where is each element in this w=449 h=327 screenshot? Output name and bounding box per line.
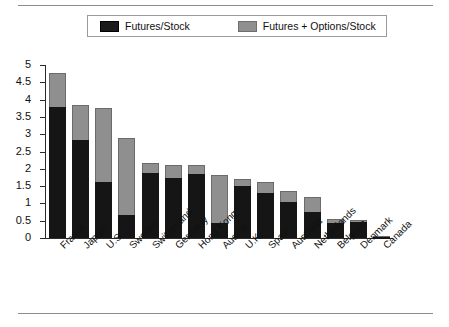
bar-segment-futures-options-stock[interactable] — [304, 197, 321, 212]
legend-swatch-futures-stock — [100, 21, 119, 32]
figure-container: Futures/Stock Futures + Options/Stock 00… — [0, 0, 449, 327]
legend-swatch-futures-options-stock — [238, 21, 257, 32]
legend-entry-futures-stock: Futures/Stock — [100, 21, 190, 32]
y-axis-tick: 0 — [40, 238, 45, 239]
bar-segment-futures-options-stock[interactable] — [188, 165, 205, 174]
y-axis-tick-label: 2.5 — [16, 145, 31, 157]
bar-segment-futures-options-stock[interactable] — [72, 105, 89, 140]
bar-group[interactable] — [72, 105, 89, 238]
y-axis-tick: 4.5 — [40, 82, 45, 83]
bottom-divider-rule — [18, 313, 433, 314]
bar-group[interactable] — [49, 73, 66, 238]
bar-segment-futures-options-stock[interactable] — [142, 163, 159, 173]
bar-segment-futures-options-stock[interactable] — [280, 191, 297, 202]
y-axis-tick-label: 0.5 — [16, 214, 31, 226]
bar-group[interactable] — [95, 108, 112, 238]
bar-segment-futures-options-stock[interactable] — [257, 182, 274, 193]
y-axis-tick-label: 4.5 — [16, 75, 31, 87]
y-axis-tick: 3.5 — [40, 117, 45, 118]
legend-label-futures-stock: Futures/Stock — [125, 21, 190, 32]
y-axis-tick-label: 1 — [25, 196, 31, 208]
y-axis-tick-label: 5 — [25, 58, 31, 70]
y-axis-tick: 3 — [40, 134, 45, 135]
plot-area: 00.511.522.533.544.55 FranceJapanU.S.Swe… — [45, 65, 393, 238]
top-divider-rule — [18, 5, 433, 6]
y-axis-tick-label: 1.5 — [16, 179, 31, 191]
y-axis-tick: 1 — [40, 203, 45, 204]
legend-label-futures-options-stock: Futures + Options/Stock — [263, 21, 376, 32]
y-axis-tick: 1.5 — [40, 186, 45, 187]
bar-series-group — [46, 65, 393, 238]
y-axis-tick: 5 — [40, 65, 45, 66]
legend-entry-futures-options-stock: Futures + Options/Stock — [238, 21, 376, 32]
y-axis-tick-label: 4 — [25, 93, 31, 105]
chart-legend: Futures/Stock Futures + Options/Stock — [87, 15, 387, 37]
bar-group[interactable] — [118, 138, 135, 238]
y-axis-tick-label: 3 — [25, 127, 31, 139]
bar-segment-futures-options-stock[interactable] — [118, 138, 135, 214]
bar-group[interactable] — [257, 182, 274, 238]
bar-segment-futures-options-stock[interactable] — [234, 179, 251, 186]
y-axis-tick: 0.5 — [40, 221, 45, 222]
y-axis-tick-label: 2 — [25, 162, 31, 174]
y-axis-tick: 4 — [40, 100, 45, 101]
bar-segment-futures-options-stock[interactable] — [165, 165, 182, 178]
y-axis-tick: 2 — [40, 169, 45, 170]
y-axis-tick: 2.5 — [40, 152, 45, 153]
bar-segment-futures-options-stock[interactable] — [95, 108, 112, 182]
y-axis-tick-label: 0 — [25, 231, 31, 243]
bar-segment-futures-stock[interactable] — [49, 107, 66, 238]
y-axis-tick-label: 3.5 — [16, 110, 31, 122]
bar-segment-futures-options-stock[interactable] — [49, 73, 66, 107]
bar-segment-futures-stock[interactable] — [257, 193, 274, 238]
